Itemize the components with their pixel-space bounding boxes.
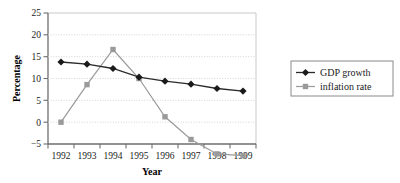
legend-label-inflation-rate: inflation rate [320,81,372,92]
y-tick-label: 20 [32,30,42,40]
x-tick-label: 1996 [156,151,175,161]
x-tick-label: 1995 [130,151,149,161]
y-tick-label: 5 [36,96,41,106]
x-tick-label: 1993 [78,151,97,161]
x-tick-label: 1994 [104,151,123,161]
y-axis-title: Percentage [11,54,22,102]
chart-figure: 25 20 15 10 5 0 −5 1992 1993 1994 1995 [0,0,400,183]
y-tick-label: 0 [36,118,41,128]
x-axis-title: Year [142,166,163,177]
legend-label-gdp-growth: GDP growth [320,67,370,78]
y-tick-label: 25 [32,8,42,18]
y-axis-ticks [44,13,49,144]
gridlines-horizontal [48,35,256,122]
x-tick-label: 1997 [182,151,201,161]
y-axis-tick-labels: 25 20 15 10 5 0 −5 [31,8,41,149]
chart-legend: GDP growth inflation rate [291,61,393,96]
x-axis-ticks [48,144,256,149]
gdp-markers [57,58,246,94]
y-tick-label: −5 [31,139,41,149]
line-chart: 25 20 15 10 5 0 −5 1992 1993 1994 1995 [0,0,400,183]
legend-marker-square-icon [303,84,308,89]
x-axis-tick-labels: 1992 1993 1994 1995 1996 1997 1998 1999 [52,151,253,161]
y-tick-label: 10 [32,74,42,84]
y-tick-label: 15 [32,52,42,62]
x-tick-label: 1992 [52,151,71,161]
series-gdp-growth [57,58,246,94]
